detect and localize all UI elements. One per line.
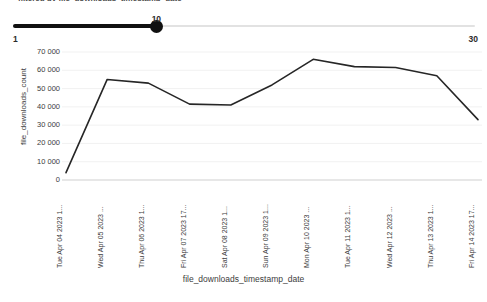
slider-value-label: 10 (152, 14, 161, 24)
y-tick-label: 40 000 (37, 103, 60, 111)
plot-canvas (62, 50, 482, 182)
date-range-slider[interactable]: 10 1 30 (0, 6, 487, 50)
x-tick-label: Fri Apr 14 2023 17... (468, 205, 475, 268)
x-tick-label: Sun Apr 09 2023 1... (262, 204, 269, 268)
x-tick-label: Thu Apr 06 2023 1... (138, 205, 145, 268)
x-tick-label: Wed Apr 05 2023 ... (97, 206, 104, 268)
y-tick-label: 0 (56, 176, 60, 184)
gridlines (62, 52, 482, 180)
slider-max-label: 30 (469, 34, 478, 44)
x-tick-label: Thu Apr 13 2023 1... (427, 205, 434, 268)
y-tick-label: 20 000 (37, 140, 60, 148)
slider-track-active (13, 24, 156, 28)
slider-min-label: 1 (13, 34, 18, 44)
slider-track[interactable]: 10 (13, 24, 475, 28)
series-line (66, 59, 478, 172)
y-tick-label: 10 000 (37, 158, 60, 166)
y-tick-label: 30 000 (37, 121, 60, 129)
x-axis-tick-labels: Tue Apr 04 2023 1...Wed Apr 05 2023 ...T… (62, 183, 482, 268)
y-tick-label: 60 000 (37, 67, 60, 75)
x-tick-label: Sat Apr 08 2023 1... (221, 206, 228, 268)
y-tick-label: 70 000 (37, 48, 60, 56)
clipped-header-caption: filtered by file_downloads_timestamp_dat… (18, 0, 182, 1)
line-chart: file_downloads_count 010 00020 00030 000… (0, 50, 487, 302)
x-tick-label: Fri Apr 07 2023 17... (180, 205, 187, 268)
x-axis-title: file_downloads_timestamp_date (0, 274, 487, 284)
x-tick-label: Tue Apr 04 2023 1... (56, 205, 63, 268)
y-tick-label: 50 000 (37, 85, 60, 93)
x-tick-label: Mon Apr 10 2023 ... (303, 207, 310, 268)
y-axis-tick-labels: 010 00020 00030 00040 00050 00060 00070 … (24, 50, 60, 182)
x-tick-label: Tue Apr 11 2023 1... (344, 205, 351, 268)
x-tick-label: Wed Apr 12 2023 ... (386, 206, 393, 268)
